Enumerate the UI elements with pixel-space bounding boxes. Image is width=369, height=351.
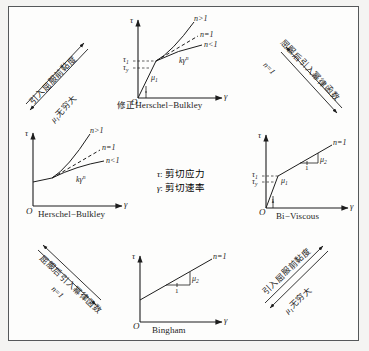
y-axis-label-bingham: τ <box>132 252 135 261</box>
y-axis-label-hb: τ <box>25 129 28 138</box>
mu-subscript: 2 <box>324 159 327 165</box>
x-axis-label-hb: γ <box>124 200 127 209</box>
slope-label-mu2-bingham: μ2 <box>192 275 199 283</box>
legend-entry-shear-rate: γ: 剪切速率 <box>157 180 205 194</box>
tau-subscript: y <box>255 181 257 187</box>
figure-root: τ γ O n>1 n=1 n<1 kγn τ1 τy μ1 修正Hersche… <box>0 0 369 351</box>
tau-y-label-bi-viscous: τy <box>252 178 257 186</box>
power-law-annotation-modified-hb: kγn <box>179 57 189 65</box>
origin-label-bingham: O <box>133 322 140 331</box>
power-law-exponent: n <box>83 174 86 180</box>
slope-label-mu1-modified-hb: μ1 <box>151 74 158 82</box>
tau-y-label-modified-hb: τy <box>123 64 128 72</box>
x-axis-label-bi-viscous: γ <box>350 202 353 211</box>
power-law-exponent: n <box>186 55 189 61</box>
caption-cn-part: 修正 <box>117 100 135 110</box>
caption-herschel-bulkley: Herschel−Bulkley <box>38 210 105 219</box>
chart-bingham <box>140 256 222 322</box>
curve-label-n-eq-1-modified-hb: n=1 <box>200 31 213 39</box>
origin-label-hb: O <box>26 207 33 216</box>
caption-bingham: Bingham <box>152 326 186 335</box>
curve-label-n-eq-1-bi-viscous: n=1 <box>333 139 346 147</box>
x-axis-label-modified-hb: γ <box>224 92 227 101</box>
caption-bi-viscous: Bi−Viscous <box>276 212 319 221</box>
curve-label-n-eq-1-bingham: n=1 <box>213 253 226 261</box>
curve-label-n-lt-1-hb: n<1 <box>106 157 119 165</box>
legend-entry-shear-stress: τ: 剪切应力 <box>157 166 205 180</box>
y-axis-label-modified-hb: τ <box>130 16 133 25</box>
legend-meaning-shear-rate: 剪切速率 <box>165 182 205 193</box>
legend-separator: : <box>160 183 163 193</box>
curve-label-n-lt-1-modified-hb: n<1 <box>204 41 217 49</box>
legend-separator: : <box>160 169 163 179</box>
y-axis-label-bi-viscous: τ <box>258 131 261 140</box>
slope-run-label-upper-bi-viscous: 1 <box>305 165 309 172</box>
curve-label-n-eq-1-hb: n=1 <box>102 144 115 152</box>
curve-label-n-gt-1-hb: n>1 <box>90 127 103 135</box>
slope-run-label-bingham: 1 <box>175 288 179 295</box>
x-axis-label-bingham: γ <box>224 316 227 325</box>
power-law-annotation-hb: kγn <box>76 176 86 184</box>
slope-label-mu2-bi-viscous: μ2 <box>320 156 327 164</box>
curve-label-n-gt-1-modified-hb: n>1 <box>194 15 207 23</box>
origin-label-bi-viscous: O <box>259 208 266 217</box>
tau-subscript: y <box>126 67 128 73</box>
mu-subscript: 1 <box>155 77 158 83</box>
mu-subscript: 2 <box>196 278 199 284</box>
mu-subscript: 1 <box>285 180 288 186</box>
caption-en-part: Herschel−Bulkley <box>135 100 202 110</box>
legend-meaning-shear-stress: 剪切应力 <box>165 168 205 179</box>
slope-label-mu1-bi-viscous: μ1 <box>281 177 288 185</box>
slope-run-label-lower-bi-viscous: 1 <box>271 198 275 205</box>
caption-modified-herschel-bulkley: 修正Herschel−Bulkley <box>117 101 202 110</box>
